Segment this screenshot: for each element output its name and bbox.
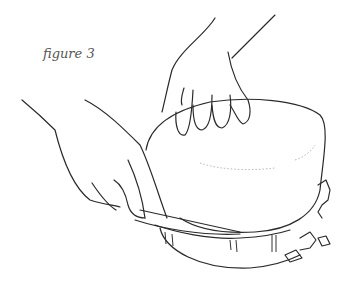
cake-cutting-illustration — [0, 0, 358, 288]
left-hand — [22, 100, 167, 218]
cake — [146, 99, 330, 268]
right-hand — [162, 15, 275, 135]
